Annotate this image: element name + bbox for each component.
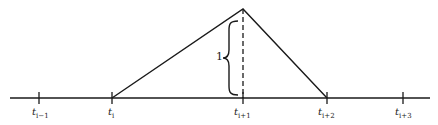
height-brace: [223, 21, 238, 95]
tick-label-t-i: ti: [108, 106, 114, 120]
tick-label-t-i-minus-1: ti−1: [32, 106, 49, 120]
height-label: 1: [216, 50, 223, 63]
tick-label-t-i-plus-2: ti+2: [318, 106, 335, 120]
tick-label-t-i-plus-3: ti+3: [395, 106, 412, 120]
tick-label-t-i-plus-1: ti+1: [234, 106, 251, 120]
